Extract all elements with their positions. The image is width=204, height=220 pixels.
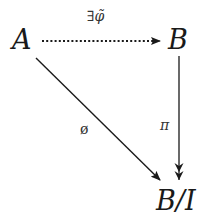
- label-pi: π: [160, 118, 169, 132]
- node-b: B: [168, 26, 188, 53]
- node-a: A: [12, 26, 32, 53]
- arrow-phi: [36, 58, 160, 180]
- label-phi: ø: [80, 122, 88, 136]
- label-exists-phi-tilde: ∃φ̃: [87, 9, 104, 23]
- node-b-mod-i: B/I: [156, 187, 196, 214]
